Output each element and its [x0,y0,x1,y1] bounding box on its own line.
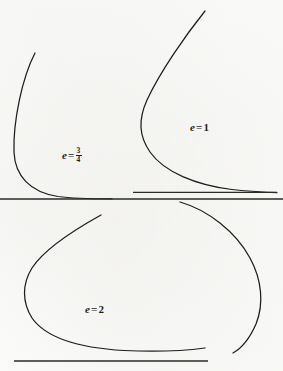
label-eccentricity-three-quarters: e=34 [62,146,82,164]
parabola-curve [141,11,277,193]
hyperbola-left-branch-curve [25,215,206,351]
ellipse-label-denominator: 4 [76,156,82,164]
ellipse-label-equals: = [68,149,74,161]
conic-sections-figure: e=34 e=1 e=2 [0,0,283,371]
parabola-label-value: 1 [204,121,210,133]
conic-curves-canvas [0,0,283,371]
parabola-label-symbol: e [190,121,195,133]
ellipse-label-fraction: 34 [76,147,82,164]
hyperbola-label-symbol: e [85,303,90,315]
label-eccentricity-two: e=2 [85,300,104,316]
ellipse-label-symbol: e [62,149,67,161]
hyperbola-right-branch-curve [180,202,261,353]
hyperbola-label-value: 2 [99,303,105,315]
label-eccentricity-one: e=1 [190,118,209,134]
parabola-label-equals: = [196,121,202,133]
ellipse-curve [14,53,112,199]
hyperbola-label-equals: = [91,303,97,315]
